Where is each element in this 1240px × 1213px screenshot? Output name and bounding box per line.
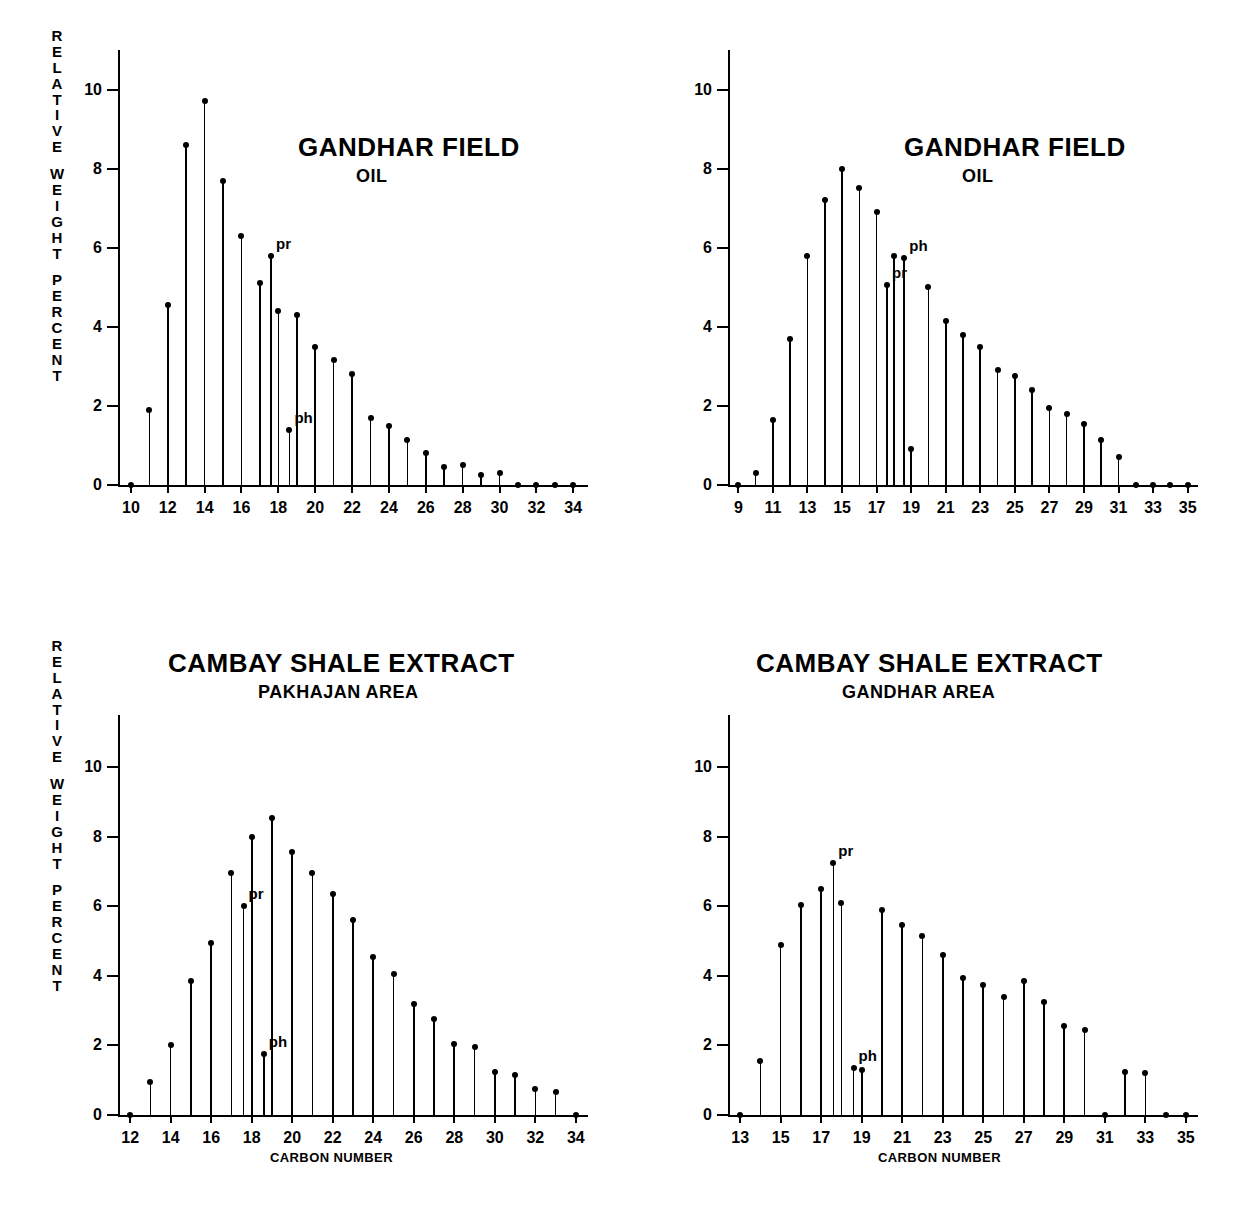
stem-line: [167, 305, 169, 485]
y-axis-tick: [107, 1114, 118, 1116]
data-point: [370, 954, 376, 960]
stem-line: [1031, 390, 1033, 485]
stem-line: [259, 283, 261, 485]
y-axis-tick-label: 6: [672, 239, 712, 257]
pristane-annotation: pr: [249, 885, 264, 902]
x-axis-tick: [494, 1115, 496, 1123]
isoprenoid-data-point: [901, 255, 907, 261]
data-point-baseline: [1133, 482, 1139, 488]
y-axis-tick-label: 4: [62, 967, 102, 985]
stem-line: [979, 347, 981, 485]
x-axis-tick: [982, 1115, 984, 1123]
data-point: [839, 166, 845, 172]
y-axis-tick: [107, 836, 118, 838]
x-axis-tick-label: 20: [306, 499, 324, 517]
y-axis-caption-letter: L: [52, 670, 61, 686]
y-axis-tick-label: 6: [62, 239, 102, 257]
y-axis-caption-letter: T: [52, 246, 61, 262]
x-axis-tick: [806, 485, 808, 493]
data-point: [238, 233, 244, 239]
y-axis-tick-label: 10: [62, 758, 102, 776]
stem-line: [861, 1070, 863, 1115]
y-axis-tick: [717, 1114, 728, 1116]
x-axis-tick-label: 15: [833, 499, 851, 517]
y-axis-caption-letter: W: [50, 776, 64, 792]
isoprenoid-data-point: [286, 427, 292, 433]
x-axis-tick-label: 32: [526, 1129, 544, 1147]
data-point: [822, 197, 828, 203]
isoprenoid-data-point: [830, 860, 836, 866]
y-axis-caption-letter: E: [52, 288, 62, 304]
x-axis-tick: [499, 485, 501, 493]
data-point: [798, 902, 804, 908]
data-point: [188, 978, 194, 984]
y-axis-caption-letter: R: [52, 28, 63, 44]
x-axis-tick: [910, 485, 912, 493]
data-point: [753, 470, 759, 476]
x-axis-tick-label: 20: [283, 1129, 301, 1147]
plot-area: 0246810131517192123252729313335prph: [728, 715, 1198, 1115]
data-point: [960, 332, 966, 338]
data-point: [778, 942, 784, 948]
y-axis-caption-letter: N: [52, 962, 63, 978]
y-axis-tick: [107, 975, 118, 977]
y-axis-tick-label: 10: [672, 758, 712, 776]
y-axis-tick-label: 4: [62, 318, 102, 336]
x-axis-tick-label: 28: [454, 499, 472, 517]
stem-line: [820, 889, 822, 1115]
y-axis-caption-letter: H: [52, 840, 63, 856]
stem-line: [876, 212, 878, 485]
figure-root: RELATIVEWEIGHTPERCENT RELATIVEWEIGHTPERC…: [0, 0, 1240, 1213]
y-axis-caption-letter: C: [52, 930, 63, 946]
stem-line: [185, 145, 187, 485]
data-point-baseline: [1167, 482, 1173, 488]
data-point: [411, 1001, 417, 1007]
x-axis-tick-label: 10: [122, 499, 140, 517]
x-axis-tick: [210, 1115, 212, 1123]
x-axis-tick-label: 33: [1144, 499, 1162, 517]
data-point: [1029, 387, 1035, 393]
x-axis-tick-label: 14: [196, 499, 214, 517]
x-axis-tick-label: 30: [486, 1129, 504, 1147]
data-point: [553, 1089, 559, 1095]
data-point: [891, 253, 897, 259]
x-axis-tick: [351, 485, 353, 493]
stem-line: [859, 188, 861, 485]
x-axis-tick-label: 34: [564, 499, 582, 517]
y-axis-tick-label: 8: [672, 828, 712, 846]
y-axis-tick-label: 0: [62, 476, 102, 494]
y-axis-caption-word: PERCENT: [52, 882, 63, 993]
data-point: [309, 870, 315, 876]
data-point: [168, 1042, 174, 1048]
stem-line: [1084, 1030, 1086, 1115]
stem-line: [1063, 1026, 1065, 1115]
data-point: [165, 302, 171, 308]
data-point: [940, 952, 946, 958]
data-point: [404, 437, 410, 443]
y-axis-caption-letter: A: [52, 76, 63, 92]
x-axis-tick-label: 12: [121, 1129, 139, 1147]
stem-line: [370, 418, 372, 485]
data-point: [859, 1067, 865, 1073]
chart-panel-gandhar-field-oil-1: GANDHAR FIELD OIL 0246810101214161820222…: [118, 50, 598, 490]
stem-line: [1083, 424, 1085, 485]
y-axis-caption-letter: E: [52, 336, 62, 352]
stem-line: [271, 818, 273, 1115]
isoprenoid-stem-line: [903, 258, 905, 485]
y-axis-tick: [717, 1044, 728, 1046]
stem-line: [433, 1019, 435, 1115]
x-axis-tick-label: 21: [893, 1129, 911, 1147]
stem-line: [824, 200, 826, 485]
data-point: [202, 98, 208, 104]
x-axis-tick: [772, 485, 774, 493]
data-point: [1122, 1069, 1128, 1075]
y-axis-tick-label: 8: [62, 160, 102, 178]
x-axis-tick: [861, 1115, 863, 1123]
stem-line: [474, 1047, 476, 1115]
stem-line: [1023, 981, 1025, 1115]
stem-line: [997, 370, 999, 485]
x-axis-tick-label: 26: [405, 1129, 423, 1147]
data-point: [960, 975, 966, 981]
data-point: [879, 907, 885, 913]
y-axis-tick-label: 0: [62, 1106, 102, 1124]
